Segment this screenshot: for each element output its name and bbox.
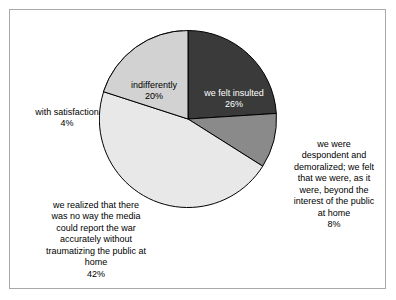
slice-label-percent: 4% (19, 118, 115, 130)
slice-label-text: we felt insulted (204, 88, 264, 98)
slice-label-text: we were despondent and demoralized; we f… (294, 139, 375, 218)
slice-label-we-realized: we realized that there was no way the me… (21, 188, 171, 292)
slice-label-text: with satisfaction (35, 107, 99, 117)
slice-label-we-felt-insulted: we felt insulted 26% (190, 76, 278, 122)
slice-label-percent: 26% (190, 99, 278, 111)
slice-label-with-satisfaction: with satisfaction 4% (19, 95, 115, 141)
slice-label-percent: 8% (282, 219, 386, 231)
slice-label-percent: 42% (21, 269, 171, 281)
slice-label-despondent: we were despondent and demoralized; we f… (282, 127, 386, 242)
slice-label-text: we realized that there was no way the me… (46, 200, 146, 268)
slice-label-text: indifferently (131, 80, 177, 90)
chart-canvas: we felt insulted 26% indifferently 20% w… (0, 0, 396, 300)
slice-label-percent: 20% (118, 91, 190, 103)
slice-label-indifferently: indifferently 20% (118, 68, 190, 114)
